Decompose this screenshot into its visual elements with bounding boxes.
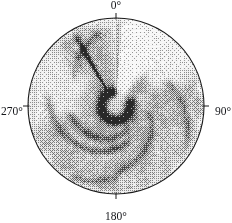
polar-radar-figure: 0° 90° 180° 270° xyxy=(0,0,232,223)
polar-axis-outline xyxy=(0,0,232,223)
azimuth-label-180: 180° xyxy=(105,211,127,223)
azimuth-label-270: 270° xyxy=(1,106,23,118)
azimuth-label-0: 0° xyxy=(111,0,121,12)
polar-plot-canvas-stack xyxy=(0,0,232,223)
azimuth-label-90: 90° xyxy=(215,106,231,118)
